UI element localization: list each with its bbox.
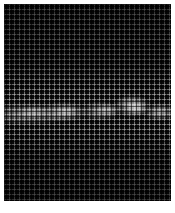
caption-strip	[3, 203, 171, 213]
figure-root	[0, 0, 175, 213]
mesh-vignette	[4, 4, 171, 201]
mesh-plot-panel	[4, 4, 171, 201]
